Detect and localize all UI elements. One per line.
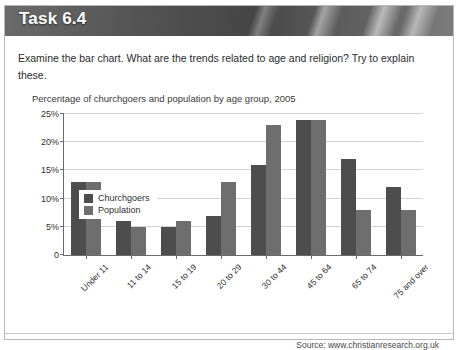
bar-group: 11 to 14: [109, 114, 154, 255]
x-axis-tick: [131, 255, 132, 259]
x-axis-label: 20 to 29: [215, 262, 244, 291]
bar-churchgoers: [116, 221, 131, 255]
x-axis-label: 75 and over: [391, 262, 430, 301]
task-title: Task 6.4: [19, 9, 86, 29]
bar-population: [311, 120, 326, 255]
bar-churchgoers: [161, 227, 176, 255]
bar-churchgoers: [341, 159, 356, 255]
x-axis-tick: [401, 255, 402, 259]
bar-churchgoers: [251, 165, 266, 255]
legend-label-population: Population: [98, 205, 141, 215]
y-axis-label: 25%: [41, 109, 59, 119]
legend-swatch-population: [84, 206, 93, 215]
x-axis-label: 15 to 19: [170, 262, 199, 291]
chart-legend: Churchgoers Population: [79, 190, 157, 219]
x-axis-tick: [266, 255, 267, 259]
bar-population: [356, 210, 371, 255]
bar-population: [131, 227, 146, 255]
x-axis-tick: [311, 255, 312, 259]
x-axis-tick: [176, 255, 177, 259]
y-axis-label: 15%: [41, 165, 59, 175]
bar-chart: 05%10%15%20%25% Under 1111 to 1415 to 19…: [5, 108, 453, 303]
bar-population: [176, 221, 191, 255]
chart-title: Percentage of churchgoers and population…: [32, 93, 296, 104]
legend-item-population: Population: [84, 205, 150, 215]
x-axis-tick: [86, 255, 87, 259]
bar-group: 30 to 44: [244, 114, 289, 255]
bar-churchgoers: [206, 216, 221, 255]
x-axis-label: 45 to 64: [304, 262, 333, 291]
legend-item-churchgoers: Churchgoers: [84, 193, 150, 203]
x-axis-label: Under 11: [79, 262, 110, 293]
x-axis-tick: [221, 255, 222, 259]
x-axis-label: 65 to 74: [349, 262, 378, 291]
legend-label-churchgoers: Churchgoers: [98, 193, 150, 203]
y-axis-label: 5%: [46, 222, 59, 232]
legend-swatch-churchgoers: [84, 194, 93, 203]
x-axis-tick: [356, 255, 357, 259]
bar-group: 15 to 19: [154, 114, 199, 255]
bar-group: 65 to 74: [333, 114, 378, 255]
task-instruction: Examine the bar chart. What are the tren…: [18, 50, 430, 84]
bar-group: 45 to 64: [288, 114, 333, 255]
y-axis-label: 10%: [41, 194, 59, 204]
plot-area: 05%10%15%20%25% Under 1111 to 1415 to 19…: [63, 114, 423, 256]
source-divider: [5, 333, 453, 334]
bar-churchgoers: [386, 187, 401, 255]
bar-population: [266, 125, 281, 255]
task-card: Task 6.4 Examine the bar chart. What are…: [4, 5, 454, 340]
bar-groups: Under 1111 to 1415 to 1920 to 2930 to 44…: [64, 114, 423, 255]
task-banner: Task 6.4: [5, 6, 453, 36]
x-axis-label: 30 to 44: [260, 262, 289, 291]
x-axis-label: 11 to 14: [125, 262, 153, 290]
bar-population: [401, 210, 416, 255]
y-axis-label: 0: [54, 250, 59, 260]
bar-group: 75 and over: [378, 114, 423, 255]
bar-group: 20 to 29: [199, 114, 244, 255]
bar-population: [221, 182, 236, 255]
bar-churchgoers: [296, 120, 311, 255]
source-note: Source: www.christianresearch.org.uk: [296, 340, 439, 350]
y-axis-label: 20%: [41, 137, 59, 147]
bar-group: Under 11: [64, 114, 109, 255]
